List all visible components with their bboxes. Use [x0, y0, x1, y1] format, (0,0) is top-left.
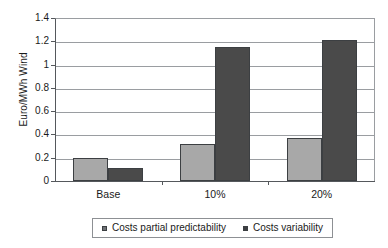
legend-item-label: Costs partial predictability — [112, 223, 226, 233]
legend-item-costs-variability: Costs variability — [243, 223, 323, 233]
legend-swatch-icon — [243, 226, 248, 231]
y-axis-tick-label: 0 — [9, 176, 49, 186]
y-axis-tick-mark — [51, 181, 55, 182]
x-axis-tick-mark — [162, 181, 163, 185]
bars-layer — [55, 18, 375, 181]
legend-swatch-icon — [102, 226, 107, 231]
y-axis-tick-label: 1.2 — [9, 36, 49, 46]
x-axis-category-label: Base — [63, 188, 153, 200]
legend-item-costs-partial-predictability: Costs partial predictability — [102, 223, 226, 233]
bar-10pct-series-1 — [215, 47, 250, 181]
bar-20pct-series-0 — [287, 138, 322, 181]
y-axis-tick-label: 1.4 — [9, 13, 49, 23]
y-axis-tick-label: 1 — [9, 60, 49, 70]
bar-20pct-series-1 — [322, 40, 357, 181]
y-axis-tick-label: 0.2 — [9, 153, 49, 163]
chart-legend: Costs partial predictability Costs varia… — [92, 218, 333, 238]
x-axis-tick-mark — [268, 181, 269, 185]
legend-item-label: Costs variability — [253, 223, 323, 233]
bar-chart-figure: Euro/MWh Wind 00.20.40.60.811.21.4 Base1… — [0, 0, 388, 248]
x-axis-category-label: 10% — [170, 188, 260, 200]
y-axis-tick-label: 0.4 — [9, 129, 49, 139]
x-axis-line — [55, 181, 375, 182]
bar-10pct-series-0 — [180, 144, 215, 181]
bar-base-series-1 — [108, 168, 143, 181]
y-axis-tick-label: 0.8 — [9, 83, 49, 93]
bar-base-series-0 — [73, 158, 108, 181]
y-axis-tick-label: 0.6 — [9, 106, 49, 116]
x-axis-category-label: 20% — [277, 188, 367, 200]
